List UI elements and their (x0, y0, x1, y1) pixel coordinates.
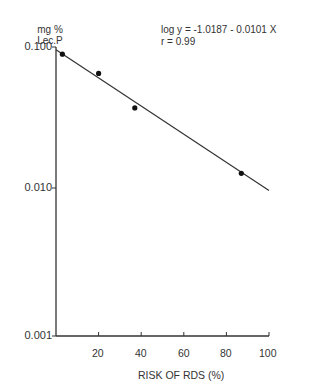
plot-area (56, 50, 269, 191)
x-tick-label-80: 80 (220, 347, 232, 359)
x-tick-label-40: 40 (135, 347, 147, 359)
axes (52, 47, 269, 336)
y-axis-label-line-1: mg % (30, 24, 70, 35)
x-axis-label: RISK OF RDS (%) (138, 369, 224, 381)
regression-line (56, 50, 269, 191)
data-point (60, 52, 65, 57)
y-tick-label-0.001: 0.001 (24, 329, 52, 341)
y-tick-label-0.010: 0.010 (24, 181, 52, 193)
data-point (96, 71, 101, 76)
data-point (239, 171, 244, 176)
regression-equation: log y = -1.0187 - 0.0101 X (161, 24, 276, 35)
x-tick-label-60: 60 (178, 347, 190, 359)
correlation-coefficient: r = 0.99 (161, 36, 195, 47)
data-point (132, 105, 137, 110)
x-tick-label-20: 20 (92, 347, 104, 359)
y-tick-label-0.100: 0.100 (24, 40, 52, 52)
x-tick-label-100: 100 (259, 347, 277, 359)
